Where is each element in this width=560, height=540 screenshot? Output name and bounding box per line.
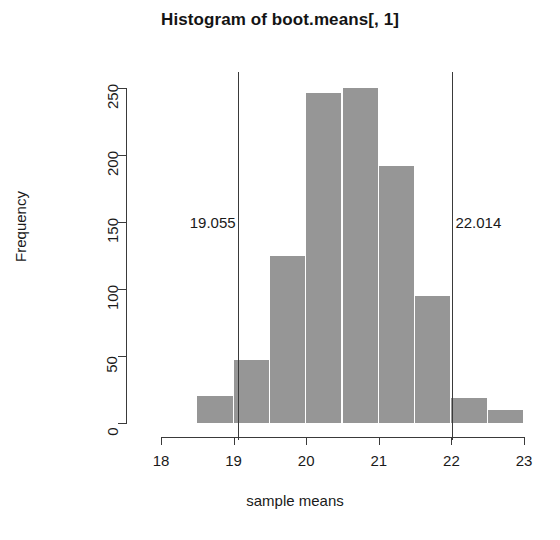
- histogram-bar: [197, 396, 232, 423]
- x-axis-tick: [234, 437, 235, 445]
- y-axis-tick-label: 100: [104, 285, 121, 310]
- x-axis-tick: [379, 437, 380, 445]
- lower-ci-line: [238, 72, 239, 440]
- histogram-bar: [270, 256, 305, 424]
- histogram-bar: [379, 166, 414, 423]
- histogram-bar: [234, 360, 269, 423]
- histogram-plot: Histogram of boot.means[, 1] Frequency 0…: [0, 0, 560, 540]
- x-axis-tick: [524, 437, 525, 445]
- x-axis-tick-label: 23: [504, 452, 544, 469]
- y-axis-tick-label: 200: [104, 151, 121, 176]
- x-axis-tick: [306, 437, 307, 445]
- x-axis-tick: [161, 437, 162, 445]
- x-axis-tick-label: 20: [286, 452, 326, 469]
- y-axis-tick-label: 50: [104, 356, 121, 373]
- histogram-bar: [343, 88, 378, 423]
- histogram-bar: [415, 296, 450, 423]
- histogram-bar: [306, 93, 341, 423]
- x-axis-tick-label: 19: [214, 452, 254, 469]
- y-axis-tick-label: 0: [104, 427, 121, 435]
- upper-ci-line: [452, 72, 453, 440]
- y-axis-line: [126, 88, 127, 424]
- upper-ci-line-label: 22.014: [455, 215, 501, 230]
- chart-title: Histogram of boot.means[, 1]: [0, 10, 560, 30]
- x-axis-line: [161, 437, 525, 438]
- y-axis-tick-label: 150: [104, 218, 121, 243]
- plot-area: 19.05522.014: [161, 88, 524, 423]
- x-axis-tick-label: 18: [141, 452, 181, 469]
- x-axis-tick-label: 22: [431, 452, 471, 469]
- histogram-bar: [451, 398, 486, 423]
- x-axis-title: sample means: [0, 492, 560, 509]
- y-axis-tick: [118, 423, 126, 424]
- lower-ci-line-label: 19.055: [190, 215, 236, 230]
- histogram-bar: [488, 410, 523, 423]
- x-axis-tick-label: 21: [359, 452, 399, 469]
- y-axis-tick-label: 250: [104, 84, 121, 109]
